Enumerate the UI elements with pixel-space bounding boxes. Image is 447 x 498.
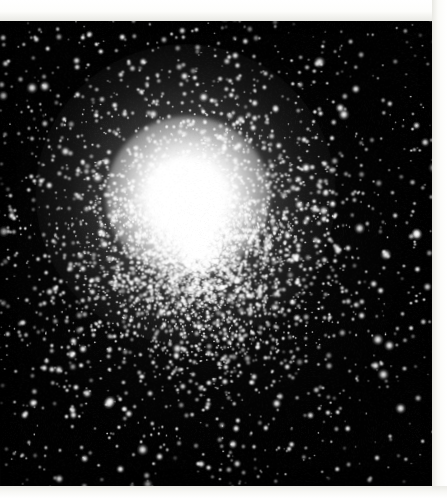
margin-top xyxy=(0,0,447,21)
margin-right xyxy=(432,0,447,498)
photograph-plate xyxy=(0,0,447,498)
resolved-star-field xyxy=(0,14,441,490)
sky-exposure-frame xyxy=(0,14,441,490)
margin-bottom xyxy=(0,486,447,498)
